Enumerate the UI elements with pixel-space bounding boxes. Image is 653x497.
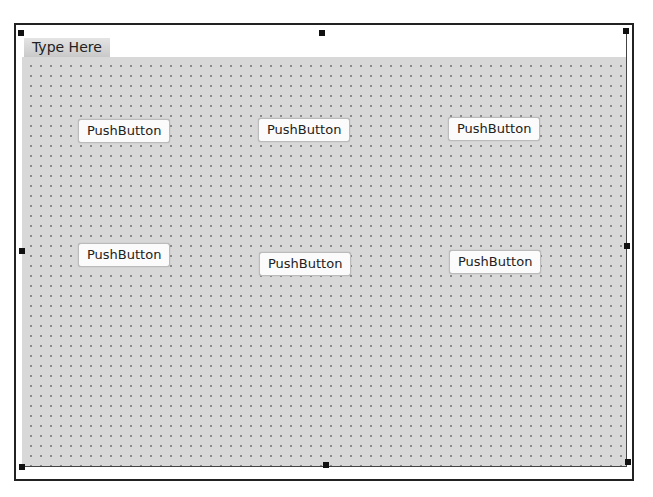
push-button-1[interactable]: PushButton	[78, 119, 170, 143]
push-button-5[interactable]: PushButton	[259, 252, 351, 276]
resize-handle-top[interactable]	[319, 30, 325, 36]
resize-handle-bottom-right[interactable]	[625, 459, 631, 465]
push-button-6[interactable]: PushButton	[449, 250, 541, 274]
resize-handle-right[interactable]	[624, 243, 630, 249]
resize-handle-left[interactable]	[19, 248, 25, 254]
push-button-3[interactable]: PushButton	[448, 117, 540, 141]
menu-type-here[interactable]: Type Here	[24, 38, 110, 57]
form-right-edge	[626, 33, 627, 466]
push-button-4[interactable]: PushButton	[78, 243, 170, 267]
resize-handle-bottom[interactable]	[323, 462, 329, 468]
push-button-2[interactable]: PushButton	[258, 118, 350, 142]
resize-handle-bottom-left[interactable]	[19, 464, 25, 470]
menu-bar: Type Here	[22, 33, 627, 57]
resize-handle-top-right[interactable]	[623, 28, 629, 34]
resize-handle-top-left[interactable]	[18, 30, 24, 36]
